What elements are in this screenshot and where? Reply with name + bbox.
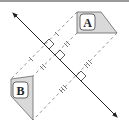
right-angle-3	[76, 71, 86, 81]
label-b: B	[16, 84, 24, 98]
connector-1	[11, 12, 77, 79]
shape-b: B	[11, 76, 33, 120]
reflection-diagram: A B	[0, 0, 129, 128]
shape-a: A	[77, 12, 117, 33]
right-angle-markers	[44, 39, 86, 81]
right-angle-2	[55, 50, 65, 60]
tick-marks	[29, 32, 92, 93]
label-a: A	[83, 16, 92, 30]
